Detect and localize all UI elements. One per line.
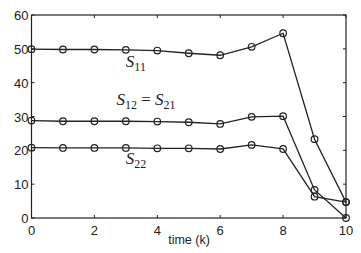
x-tick-label: 2 bbox=[91, 223, 98, 238]
series-s22 bbox=[28, 142, 349, 206]
annotation-s22: S22 bbox=[126, 149, 147, 171]
y-tick-label: 50 bbox=[14, 42, 28, 57]
series-layer bbox=[28, 30, 349, 221]
annotation-s12-equals-s21: S12 = S21 bbox=[116, 90, 175, 112]
y-tick-label: 40 bbox=[14, 76, 28, 91]
x-tick-label: 0 bbox=[28, 223, 35, 238]
x-tick-label: 10 bbox=[339, 223, 353, 238]
y-tick-label: 20 bbox=[14, 143, 28, 158]
x-tick-label: 8 bbox=[279, 223, 286, 238]
y-tick-label: 0 bbox=[21, 211, 28, 226]
line-chart: 02468100102030405060 S11 S12 = S21 S22 t… bbox=[0, 0, 361, 253]
x-tick-label: 4 bbox=[154, 223, 161, 238]
annotation-s11: S11 bbox=[126, 52, 146, 74]
y-tick-label: 10 bbox=[14, 177, 28, 192]
x-axis-label: time (k) bbox=[168, 233, 210, 247]
y-tick-label: 30 bbox=[14, 110, 28, 125]
axes-frame bbox=[32, 15, 347, 218]
series-s12-s21 bbox=[28, 113, 349, 221]
axes: 02468100102030405060 bbox=[14, 8, 353, 238]
annotations: S11 S12 = S21 S22 bbox=[116, 52, 175, 170]
series-s11 bbox=[28, 30, 349, 205]
y-tick-label: 60 bbox=[14, 8, 28, 23]
x-tick-label: 6 bbox=[217, 223, 224, 238]
